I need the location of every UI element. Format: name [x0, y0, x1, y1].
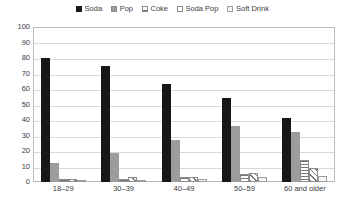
bar-soda-pop[interactable]: [309, 168, 318, 182]
bar-coke[interactable]: [180, 177, 189, 182]
x-axis-tick-label: 18–29: [33, 185, 93, 201]
bar-soda-pop[interactable]: [249, 173, 258, 182]
y-axis-tick-label: 40: [0, 116, 30, 124]
legend-label-coke: Coke: [150, 5, 168, 13]
y-axis-tick-label: 90: [0, 39, 30, 47]
bar-pop[interactable]: [110, 153, 119, 182]
bar-coke[interactable]: [240, 174, 249, 182]
bar-groups: [33, 27, 335, 182]
x-axis-tick-label: 40–49: [154, 185, 214, 201]
legend-item-coke[interactable]: Coke: [142, 5, 168, 13]
bar-soda-pop[interactable]: [68, 179, 77, 182]
bar-group: [275, 27, 335, 182]
y-axis-tick-label: 60: [0, 85, 30, 93]
x-axis: 18–2930–3940–4950–5960 and older: [33, 185, 335, 201]
bar-soft-drink[interactable]: [137, 180, 146, 182]
bar-chart: Soda Pop Coke Soda Pop Soft Drink 100908…: [0, 0, 345, 207]
x-axis-tick-label: 50–59: [214, 185, 274, 201]
legend-item-soft-drink[interactable]: Soft Drink: [227, 5, 268, 13]
bar-soda[interactable]: [162, 84, 171, 182]
chart-legend: Soda Pop Coke Soda Pop Soft Drink: [0, 5, 345, 13]
x-axis-tick-label: 60 and older: [275, 185, 335, 201]
y-axis-tick-label: 100: [0, 23, 30, 31]
bar-soft-drink[interactable]: [77, 180, 86, 182]
y-axis-tick-label: 70: [0, 70, 30, 78]
legend-swatch-soft-drink-icon: [227, 6, 233, 12]
legend-label-soft-drink: Soft Drink: [236, 5, 269, 13]
legend-item-soda[interactable]: Soda: [76, 5, 102, 13]
y-axis-tick-label: 0: [0, 178, 30, 186]
y-axis-tick-label: 80: [0, 54, 30, 62]
bar-pop[interactable]: [231, 126, 240, 182]
bar-pop[interactable]: [50, 163, 59, 182]
y-axis-tick-label: 10: [0, 163, 30, 171]
legend-label-soda-pop: Soda Pop: [186, 5, 219, 13]
bar-soda[interactable]: [41, 58, 50, 182]
legend-swatch-pop-icon: [111, 6, 117, 12]
y-axis-tick-label: 20: [0, 147, 30, 155]
x-axis-tick-label: 30–39: [93, 185, 153, 201]
bar-coke[interactable]: [300, 160, 309, 182]
legend-label-pop: Pop: [120, 5, 133, 13]
legend-item-soda-pop[interactable]: Soda Pop: [177, 5, 218, 13]
bar-pop[interactable]: [171, 140, 180, 182]
bar-group: [33, 27, 93, 182]
legend-swatch-coke-icon: [142, 6, 148, 12]
bar-coke[interactable]: [119, 179, 128, 182]
y-axis: 1009080706050403020100: [0, 27, 30, 182]
bar-coke[interactable]: [59, 179, 68, 182]
legend-swatch-soda-pop-icon: [177, 6, 183, 12]
bar-group: [154, 27, 214, 182]
legend-swatch-soda-icon: [76, 6, 82, 12]
bar-soda[interactable]: [282, 118, 291, 182]
bar-group: [214, 27, 274, 182]
bar-soda-pop[interactable]: [189, 177, 198, 182]
bar-group: [93, 27, 153, 182]
bar-soft-drink[interactable]: [258, 177, 267, 182]
y-axis-tick-label: 30: [0, 132, 30, 140]
bar-soda[interactable]: [222, 98, 231, 182]
bar-soda[interactable]: [101, 66, 110, 182]
y-axis-tick-label: 50: [0, 101, 30, 109]
bar-soft-drink[interactable]: [318, 176, 327, 182]
bar-soda-pop[interactable]: [128, 177, 137, 182]
bar-pop[interactable]: [291, 132, 300, 182]
legend-item-pop[interactable]: Pop: [111, 5, 133, 13]
bar-soft-drink[interactable]: [198, 179, 207, 182]
legend-label-soda: Soda: [85, 5, 103, 13]
